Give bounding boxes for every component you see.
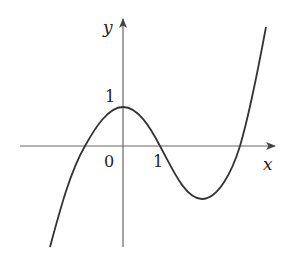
cubic-curve <box>50 27 266 247</box>
x-axis-label: x <box>263 154 273 174</box>
y-tick-label-1: 1 <box>105 87 115 106</box>
x-tick-label-1: 1 <box>153 152 163 171</box>
y-axis-label: y <box>102 17 113 37</box>
origin-label: 0 <box>104 152 114 171</box>
cubic-graph: y x 0 1 1 <box>0 0 282 263</box>
